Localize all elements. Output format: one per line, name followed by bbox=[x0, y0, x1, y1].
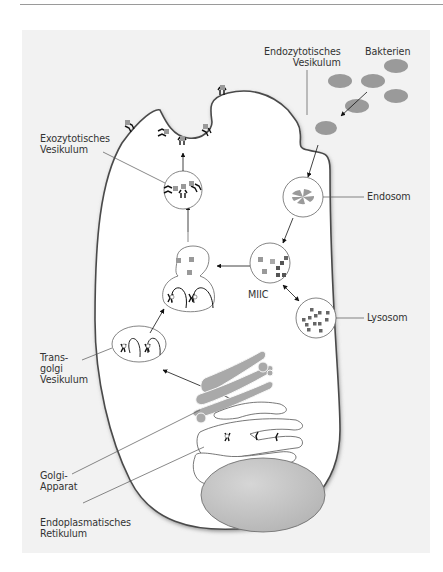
label-trans-golgi-vesicle: Trans- golgi Vesikulum bbox=[40, 352, 88, 385]
nucleus bbox=[201, 458, 325, 532]
miic-compartment bbox=[250, 243, 290, 283]
label-golgi-apparatus: Golgi- Apparat bbox=[40, 470, 78, 492]
label-bacteria: Bakterien bbox=[365, 46, 410, 57]
label-miic: MIIC bbox=[248, 289, 268, 300]
endosome bbox=[283, 177, 323, 217]
bacterium bbox=[384, 59, 408, 73]
bacterium bbox=[361, 74, 385, 88]
label-endocytic-vesicle: Endozytotisches Vesikulum bbox=[264, 46, 341, 68]
label-lysosome: Lysosom bbox=[367, 312, 408, 323]
label-endosome: Endosom bbox=[367, 191, 411, 202]
bacterium bbox=[328, 74, 352, 88]
bacterium bbox=[384, 89, 408, 103]
label-exocytic-vesicle: Exozytotisches Vesikulum bbox=[40, 133, 110, 155]
trans-golgi-vesicle bbox=[112, 326, 166, 362]
exocytic-vesicle bbox=[164, 171, 202, 209]
lysosome bbox=[296, 298, 336, 338]
label-endoplasmic-reticulum: Endoplasmatisches Retikulum bbox=[40, 517, 131, 539]
bacterium bbox=[315, 121, 337, 135]
